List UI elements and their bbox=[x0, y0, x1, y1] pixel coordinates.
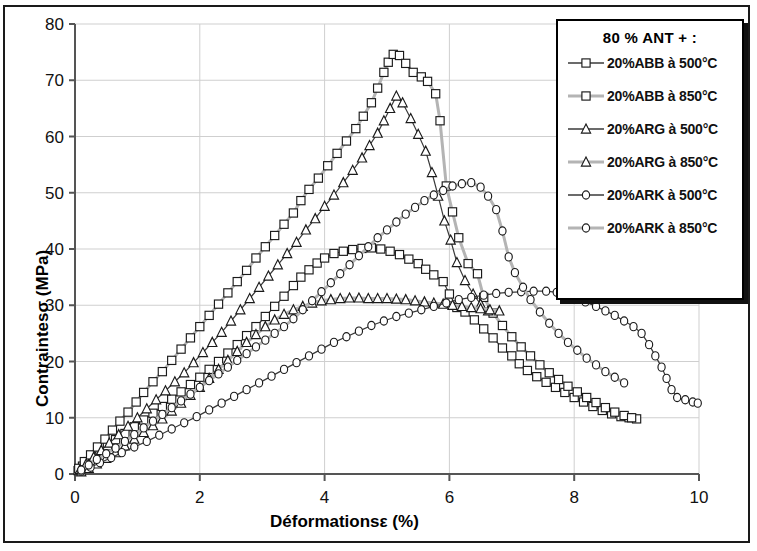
svg-text:0: 0 bbox=[70, 488, 79, 507]
svg-text:10: 10 bbox=[45, 409, 64, 428]
legend-entry-4: 20%ARK à 500°C bbox=[558, 178, 742, 211]
svg-text:4: 4 bbox=[320, 488, 329, 507]
legend-marker-icon bbox=[565, 220, 607, 236]
legend-entry-0: 20%ABB à 500°C bbox=[558, 46, 742, 79]
svg-text:70: 70 bbox=[45, 71, 64, 90]
chart-inner: 010203040506070800246810 Contraintesσ (M… bbox=[5, 7, 748, 541]
legend-marker-icon bbox=[565, 154, 607, 170]
x-axis-label: Déformationsε (%) bbox=[270, 512, 419, 532]
svg-text:8: 8 bbox=[569, 488, 578, 507]
series-5 bbox=[78, 179, 628, 475]
series-4 bbox=[78, 287, 702, 475]
svg-text:50: 50 bbox=[45, 184, 64, 203]
svg-text:2: 2 bbox=[195, 488, 204, 507]
svg-text:60: 60 bbox=[45, 128, 64, 147]
legend-entry-5: 20%ARK à 850°C bbox=[558, 211, 742, 244]
legend-entry-label: 20%ARG à 500°C bbox=[607, 121, 718, 137]
legend-marker-icon bbox=[565, 121, 607, 137]
legend-marker-icon bbox=[565, 55, 607, 71]
chart-frame: 010203040506070800246810 Contraintesσ (M… bbox=[3, 5, 750, 543]
legend-entry-label: 20%ARK à 500°C bbox=[607, 187, 717, 203]
legend-marker-icon bbox=[565, 187, 607, 203]
legend-marker-icon bbox=[565, 88, 607, 104]
legend-entry-label: 20%ARK à 850°C bbox=[607, 220, 717, 236]
svg-text:0: 0 bbox=[55, 465, 64, 484]
chart-legend: 80 % ANT + : 20%ABB à 500°C20%ABB à 850°… bbox=[556, 19, 744, 300]
series-2 bbox=[75, 91, 492, 474]
legend-entry-label: 20%ARG à 850°C bbox=[607, 154, 718, 170]
legend-entry-1: 20%ABB à 850°C bbox=[558, 79, 742, 112]
y-axis-label: Contraintesσ (MPa) bbox=[33, 250, 53, 407]
legend-entry-3: 20%ARG à 850°C bbox=[558, 145, 742, 178]
svg-text:80: 80 bbox=[45, 15, 64, 34]
legend-entry-label: 20%ABB à 500°C bbox=[607, 55, 717, 71]
svg-text:6: 6 bbox=[445, 488, 454, 507]
legend-title: 80 % ANT + : bbox=[558, 29, 742, 46]
legend-entries: 20%ABB à 500°C20%ABB à 850°C20%ARG à 500… bbox=[558, 46, 742, 244]
legend-entry-2: 20%ARG à 500°C bbox=[558, 112, 742, 145]
legend-entry-label: 20%ABB à 850°C bbox=[607, 88, 717, 104]
svg-text:10: 10 bbox=[690, 488, 709, 507]
